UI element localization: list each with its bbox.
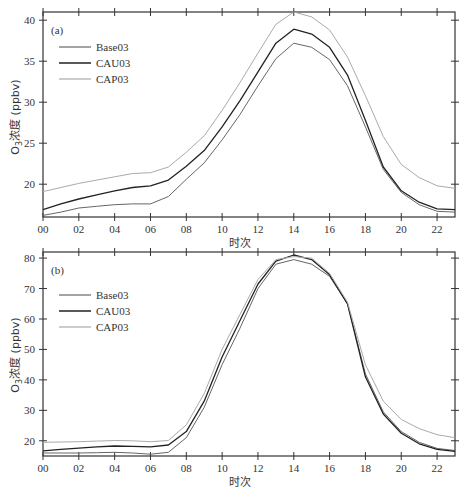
x-tick-label: 16: [324, 223, 336, 235]
y-tick-label: 25: [24, 137, 36, 149]
x-tick-label: 14: [288, 462, 300, 474]
x-tick-label: 08: [181, 462, 193, 474]
x-axis-title: 时次: [229, 236, 251, 250]
x-tick-label: 10: [217, 462, 229, 474]
series-line-cap03: [43, 12, 455, 192]
panel-label: (b): [51, 264, 64, 277]
legend-item-cau03: CAU03: [59, 57, 131, 69]
y-tick-label: 30: [24, 96, 36, 108]
y-axis-title: O3浓度 (ppbv): [8, 317, 24, 392]
x-tick-label: 20: [396, 462, 408, 474]
x-tick-label: 06: [145, 223, 157, 235]
x-tick-label: 06: [145, 462, 157, 474]
x-tick-label: 08: [181, 223, 193, 235]
legend-item-base03: Base03: [59, 41, 129, 53]
y-tick-label: 30: [24, 404, 36, 416]
legend-item-cap03: CAP03: [59, 321, 129, 333]
x-tick-label: 20: [396, 223, 408, 235]
series-line-cau03: [43, 255, 455, 451]
legend-label: CAU03: [96, 305, 131, 317]
x-tick-label: 10: [217, 223, 229, 235]
x-tick-label: 04: [109, 462, 121, 474]
y-tick-label: 80: [24, 252, 36, 264]
legend-item-cap03: CAP03: [59, 73, 129, 85]
y-tick-label: 40: [24, 374, 36, 386]
legend-item-base03: Base03: [59, 289, 129, 301]
x-tick-label: 18: [360, 462, 372, 474]
y-tick-label: 35: [24, 55, 36, 67]
panel-label: (a): [51, 24, 64, 37]
x-tick-label: 00: [38, 462, 50, 474]
x-tick-label: 22: [432, 462, 443, 474]
y-tick-label: 50: [24, 343, 36, 355]
x-axis-title: 时次: [229, 475, 251, 489]
y-tick-label: 20: [24, 435, 36, 447]
series-line-base03: [43, 43, 455, 215]
x-tick-label: 22: [432, 223, 443, 235]
legend-label: CAP03: [96, 73, 129, 85]
x-tick-label: 02: [73, 223, 84, 235]
x-tick-label: 14: [288, 223, 300, 235]
x-tick-label: 16: [324, 462, 336, 474]
legend-label: CAP03: [96, 321, 129, 333]
x-tick-label: 12: [252, 462, 263, 474]
x-tick-label: 18: [360, 223, 372, 235]
legend-label: Base03: [96, 41, 129, 53]
x-tick-label: 00: [38, 223, 50, 235]
y-tick-label: 70: [24, 283, 36, 295]
chart-panel-a: 0002040608101214161820222025303540时次O3浓度…: [8, 8, 459, 250]
y-tick-label: 20: [24, 178, 36, 190]
x-tick-label: 04: [109, 223, 121, 235]
legend-label: Base03: [96, 289, 129, 301]
y-tick-label: 40: [24, 14, 36, 26]
legend-item-cau03: CAU03: [59, 305, 131, 317]
legend-label: CAU03: [96, 57, 131, 69]
x-tick-label: 02: [73, 462, 84, 474]
x-tick-label: 12: [252, 223, 263, 235]
chart-canvas: 0002040608101214161820222025303540时次O3浓度…: [0, 0, 469, 494]
chart-panel-b: 00020406081012141618202220304050607080时次…: [8, 248, 459, 489]
y-axis-title: O3浓度 (ppbv): [8, 79, 24, 154]
y-tick-label: 60: [24, 313, 36, 325]
series-line-cap03: [43, 257, 455, 443]
